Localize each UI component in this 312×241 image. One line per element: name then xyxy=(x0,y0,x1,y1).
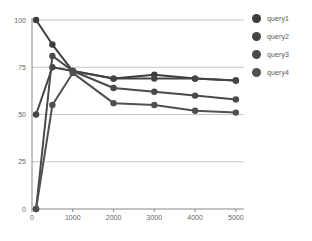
axis-lines xyxy=(32,18,244,209)
legend-swatch-icon xyxy=(252,32,261,41)
x-tick-label: 0 xyxy=(30,214,34,221)
data-point-query4-2000 xyxy=(110,100,116,106)
y-tick-label: 50 xyxy=(18,111,26,118)
chart-svg: 0255075100 010002000300040005000 xyxy=(0,0,250,241)
series-line-query1 xyxy=(36,20,236,80)
x-tick-label: 1000 xyxy=(65,214,81,221)
data-point-query4-1000 xyxy=(70,70,76,76)
data-point-query3-4000 xyxy=(192,92,198,98)
legend-item-label: query3 xyxy=(267,51,289,58)
data-point-query2-4000 xyxy=(192,75,198,81)
x-tick-label: 5000 xyxy=(228,214,244,221)
y-tick-label: 75 xyxy=(18,64,26,71)
legend-item-label: query2 xyxy=(267,33,289,40)
data-point-query3-2000 xyxy=(110,85,116,91)
plot-area: 0255075100 010002000300040005000 xyxy=(0,0,250,241)
legend-swatch-icon xyxy=(252,50,261,59)
legend-item-query4[interactable]: query4 xyxy=(252,64,312,81)
legend-item-query1[interactable]: query1 xyxy=(252,10,312,27)
legend-swatch-icon xyxy=(252,68,261,77)
data-point-query2-5000 xyxy=(233,77,239,83)
data-point-query3-3000 xyxy=(151,89,157,95)
legend-swatch-icon xyxy=(252,14,261,23)
x-tick-labels: 010002000300040005000 xyxy=(30,209,244,221)
data-point-query1-100 xyxy=(33,17,39,23)
data-point-query4-5000 xyxy=(233,109,239,115)
data-point-query4-100 xyxy=(33,206,39,212)
y-tick-label: 0 xyxy=(22,206,26,213)
data-point-query2-100 xyxy=(33,111,39,117)
data-point-query1-500 xyxy=(49,41,55,47)
x-tick-label: 4000 xyxy=(187,214,203,221)
data-point-query3-5000 xyxy=(233,96,239,102)
data-point-query4-500 xyxy=(49,102,55,108)
data-point-query2-3000 xyxy=(151,75,157,81)
x-tick-label: 2000 xyxy=(106,214,122,221)
x-tick-label: 3000 xyxy=(147,214,163,221)
legend-item-label: query1 xyxy=(267,15,289,22)
data-point-query2-2000 xyxy=(110,75,116,81)
data-point-query4-3000 xyxy=(151,102,157,108)
series-line-query4 xyxy=(36,73,236,209)
y-tick-labels: 0255075100 xyxy=(14,17,26,213)
data-point-query4-4000 xyxy=(192,108,198,114)
chart-legend: query1query2query3query4 xyxy=(252,10,312,82)
legend-item-query3[interactable]: query3 xyxy=(252,46,312,63)
line-chart: 0255075100 010002000300040005000 query1q… xyxy=(0,0,312,241)
legend-item-label: query4 xyxy=(267,69,289,76)
y-tick-label: 100 xyxy=(14,17,26,24)
y-tick-label: 25 xyxy=(18,158,26,165)
data-point-query3-500 xyxy=(49,53,55,59)
legend-item-query2[interactable]: query2 xyxy=(252,28,312,45)
